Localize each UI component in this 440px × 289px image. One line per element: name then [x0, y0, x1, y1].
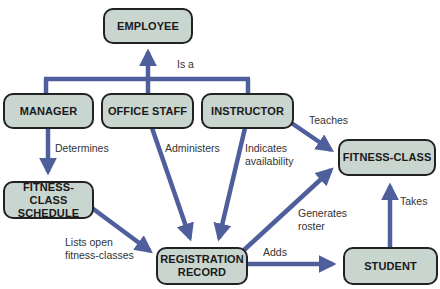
edge-label-administers: Administers: [165, 142, 220, 155]
node-instructor: INSTRUCTOR: [201, 93, 294, 129]
node-registration-record: REGISTRATION RECORD: [156, 247, 248, 285]
node-fitness-class-label: FITNESS-CLASS: [343, 151, 432, 164]
edge-label-lists-line2: fitness-classes: [65, 249, 134, 262]
edge-label-lists-line1: Lists open: [65, 236, 113, 249]
node-registration-label-line1: REGISTRATION: [160, 253, 244, 266]
edge-label-adds: Adds: [263, 246, 287, 259]
edge-label-is-a: Is a: [177, 58, 194, 71]
node-schedule-label-line1: FITNESS-CLASS: [5, 181, 92, 207]
node-fitness-class-schedule: FITNESS-CLASS SCHEDULE: [3, 181, 94, 219]
node-employee: EMPLOYEE: [103, 8, 193, 44]
node-employee-label: EMPLOYEE: [117, 20, 179, 33]
node-fitness-class: FITNESS-CLASS: [338, 139, 436, 176]
node-office-staff: OFFICE STAFF: [101, 93, 194, 129]
node-instructor-label: INSTRUCTOR: [211, 105, 284, 118]
node-manager-label: MANAGER: [20, 105, 78, 118]
node-student-label: STUDENT: [364, 260, 417, 273]
edge-label-determines: Determines: [55, 142, 109, 155]
node-manager: MANAGER: [3, 93, 94, 129]
edge-label-indicates-line2: availability: [245, 155, 293, 168]
node-schedule-label-line2: SCHEDULE: [18, 207, 79, 220]
concept-map: EMPLOYEE MANAGER OFFICE STAFF INSTRUCTOR…: [0, 0, 440, 289]
node-student: STUDENT: [343, 247, 438, 285]
edge-label-takes: Takes: [400, 195, 427, 208]
indicates-arrow: [219, 128, 245, 238]
edge-label-indicates-line1: Indicates: [245, 142, 287, 155]
edge-label-teaches: Teaches: [309, 114, 348, 127]
is-a-connector: [44, 52, 250, 93]
node-office-staff-label: OFFICE STAFF: [108, 105, 187, 118]
edge-label-generates-line1: Generates: [298, 207, 347, 220]
edge-label-generates-line2: roster: [298, 220, 325, 233]
node-registration-label-line2: RECORD: [178, 266, 226, 279]
